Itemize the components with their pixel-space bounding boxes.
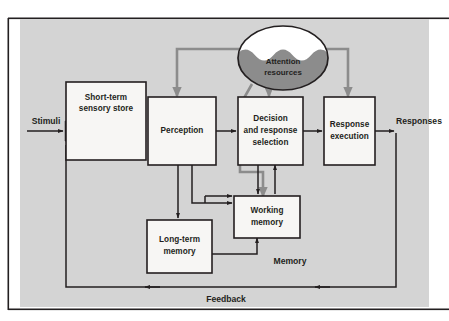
response-execution-label-line1: Response: [330, 120, 370, 129]
page-top-rule: [8, 18, 449, 20]
response-execution-box: [324, 97, 375, 165]
attention-resources-label-line1: Attention: [266, 57, 301, 66]
decision-label-line1: Decision: [253, 114, 288, 123]
box-decision-and-response-selection: Decision and response selection: [238, 97, 303, 165]
box-working-memory: Working memory: [234, 196, 300, 238]
box-short-term-sensory-store: Short-term sensory store: [66, 82, 146, 160]
page-left-rule: [8, 18, 10, 310]
box-response-execution: Response execution: [324, 97, 375, 165]
figure-root: Short-term sensory store Perception Deci…: [0, 0, 449, 321]
box-perception: Perception: [148, 97, 216, 165]
memory-label: Memory: [274, 256, 307, 266]
box-long-term-memory: Long-term memory: [147, 220, 212, 273]
working-memory-box: [234, 196, 300, 238]
responses-label: Responses: [396, 116, 442, 126]
working-memory-label-line2: memory: [251, 218, 284, 227]
attention-resources-label-line2: resources: [264, 68, 302, 77]
response-execution-label-line2: execution: [330, 132, 369, 141]
long-term-memory-label-line2: memory: [163, 247, 196, 256]
perception-label: Perception: [161, 126, 204, 135]
working-memory-label-line1: Working: [251, 206, 284, 215]
stimuli-label: Stimuli: [32, 116, 61, 126]
decision-label-line2: and response: [244, 126, 298, 135]
long-term-memory-label-line1: Long-term: [159, 235, 200, 244]
information-processing-diagram: Short-term sensory store Perception Deci…: [0, 0, 449, 321]
page-bottom-rule: [8, 309, 449, 311]
feedback-label: Feedback: [206, 294, 246, 304]
decision-label-line3: selection: [253, 138, 289, 147]
short-term-sensory-store-label-line1: Short-term: [85, 93, 127, 102]
short-term-sensory-store-label-line2: sensory store: [79, 104, 134, 113]
